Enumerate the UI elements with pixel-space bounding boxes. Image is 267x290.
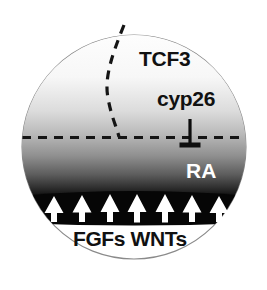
label-fgfs-wnts: FGFs WNTs (73, 228, 187, 249)
diagram-canvas: TCF3 cyp26 RA FGFs WNTs (0, 0, 267, 290)
label-ra: RA (186, 160, 216, 181)
label-cyp26: cyp26 (157, 88, 215, 109)
label-tcf3: TCF3 (139, 48, 190, 69)
